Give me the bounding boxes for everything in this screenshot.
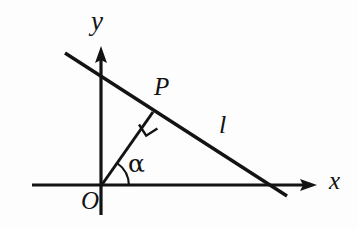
origin-label: O (81, 188, 99, 213)
geometry-diagram: y x P l O α (0, 0, 357, 229)
line-l-label: l (219, 112, 226, 138)
line-l (65, 53, 287, 196)
angle-alpha-label: α (128, 151, 145, 176)
diagram-canvas (0, 0, 357, 229)
y-axis-label: y (91, 8, 103, 35)
x-axis-label: x (329, 168, 340, 193)
point-p-label: P (154, 74, 169, 99)
